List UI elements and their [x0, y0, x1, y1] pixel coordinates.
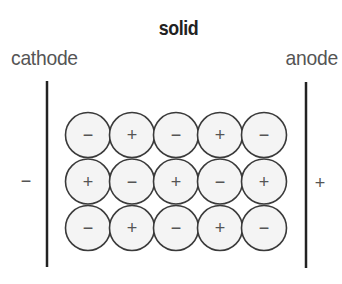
ion-charge-label: − [127, 172, 138, 192]
ion-lattice-diagram: − + −+−+−+−+−+−+−+− [0, 0, 342, 284]
ion-charge-label: − [259, 218, 270, 238]
ion-charge-label: − [259, 125, 270, 145]
ion-charge-label: + [83, 172, 94, 192]
ion-charge-label: − [215, 172, 226, 192]
ion-charge-label: + [171, 172, 182, 192]
ion-charge-label: − [171, 218, 182, 238]
ion-grid: −+−+−+−+−+−+−+− [66, 113, 287, 251]
ion-charge-label: − [83, 125, 94, 145]
ion-charge-label: + [259, 172, 270, 192]
ion-charge-label: + [127, 125, 138, 145]
ion-charge-label: + [215, 218, 226, 238]
ion-charge-label: − [171, 125, 182, 145]
cathode-polarity: − [21, 171, 32, 191]
ion-charge-label: + [127, 218, 138, 238]
ion-charge-label: − [83, 218, 94, 238]
ion-charge-label: + [215, 125, 226, 145]
anode-polarity: + [315, 173, 326, 193]
